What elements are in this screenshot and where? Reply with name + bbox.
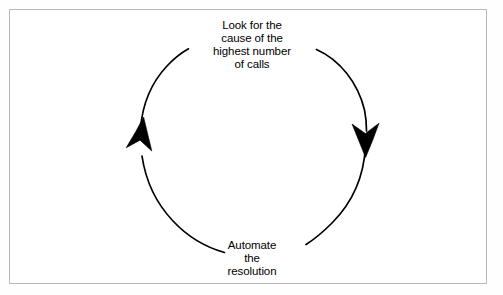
step-label-top-line-4: of calls [213,58,291,71]
arc-bottom-left [142,156,225,253]
arrowhead-right-down-icon [352,123,379,157]
step-label-bottom-line-1: Automate [228,239,277,252]
arrowhead-left-up-icon [126,117,152,151]
arc-top-left [141,49,189,129]
arc-bottom-right [306,146,366,245]
step-label-top-line-3: highest number [213,45,291,58]
step-label-bottom-line-2: the [228,252,277,265]
step-label-bottom-line-3: resolution [228,265,277,278]
step-label-top-line-2: cause of the [213,32,291,45]
step-label-bottom: Automate the resolution [228,239,277,278]
step-label-top-line-1: Look for the [213,19,291,32]
step-label-top: Look for the cause of the highest number… [213,19,291,71]
arc-top-right [317,50,367,132]
figure-root: Look for the cause of the highest number… [0,0,503,295]
